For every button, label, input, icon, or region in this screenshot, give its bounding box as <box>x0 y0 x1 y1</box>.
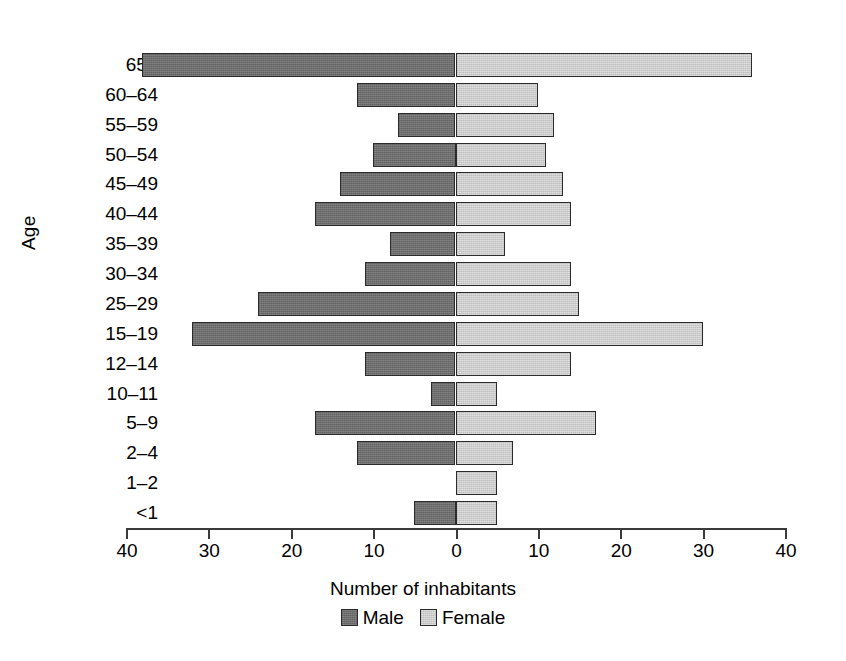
x-axis-tick-label: 10 <box>344 541 404 560</box>
bar-row <box>126 83 785 107</box>
x-axis-tick <box>291 528 293 539</box>
x-axis-tick-label: 40 <box>97 541 157 560</box>
y-axis-title: Age <box>18 216 40 250</box>
bar-female <box>456 113 555 137</box>
bar-female <box>456 322 703 346</box>
legend-entry: Female <box>420 608 505 627</box>
bar-female <box>456 53 753 77</box>
bar-female <box>456 202 571 226</box>
bar-row <box>126 53 785 77</box>
bar-male <box>258 292 456 316</box>
bar-row <box>126 352 785 376</box>
bar-male <box>365 262 456 286</box>
bar-male <box>315 202 455 226</box>
bar-male <box>398 113 456 137</box>
bar-female <box>456 262 571 286</box>
bar-row <box>126 501 785 525</box>
legend-label: Male <box>363 608 404 627</box>
legend-entry: Male <box>341 608 404 627</box>
x-axis-tick-label: 0 <box>427 541 487 560</box>
bar-male <box>390 232 456 256</box>
bar-row <box>126 262 785 286</box>
bar-male <box>340 172 455 196</box>
x-axis-tick-label: 30 <box>674 541 734 560</box>
x-axis-title: Number of inhabitants <box>0 578 846 600</box>
bar-row <box>126 471 785 495</box>
bar-female <box>456 471 497 495</box>
bar-row <box>126 143 785 167</box>
bar-female <box>456 501 497 525</box>
bar-female <box>456 143 547 167</box>
bar-female <box>456 441 514 465</box>
bar-row <box>126 232 785 256</box>
x-axis-tick <box>785 528 787 539</box>
x-axis-tick <box>538 528 540 539</box>
x-axis-tick <box>456 528 458 539</box>
bar-row <box>126 382 785 406</box>
bar-female <box>456 382 497 406</box>
chart-legend: MaleFemale <box>0 608 846 627</box>
bar-row <box>126 411 785 435</box>
bar-male <box>357 83 456 107</box>
x-axis-tick-label: 10 <box>509 541 569 560</box>
bar-row <box>126 202 785 226</box>
bar-male <box>357 441 456 465</box>
x-axis-tick <box>126 528 128 539</box>
bar-male <box>365 352 456 376</box>
bar-female <box>456 352 571 376</box>
plot-area <box>126 50 785 528</box>
female-swatch <box>420 609 437 626</box>
x-axis-tick-label: 40 <box>756 541 816 560</box>
bar-male <box>142 53 455 77</box>
bar-female <box>456 83 538 107</box>
bar-male <box>414 501 455 525</box>
x-axis-tick-label: 20 <box>591 541 651 560</box>
x-axis-tick <box>208 528 210 539</box>
bar-female <box>456 292 580 316</box>
bar-row <box>126 113 785 137</box>
bar-row <box>126 292 785 316</box>
bar-male <box>315 411 455 435</box>
legend-label: Female <box>442 608 505 627</box>
bar-female <box>456 172 563 196</box>
x-axis-tick <box>620 528 622 539</box>
population-pyramid-chart: Age 65+60–6455–5950–5445–4940–4435–3930–… <box>0 0 846 661</box>
x-axis-tick <box>703 528 705 539</box>
bar-row <box>126 322 785 346</box>
x-axis-tick-label: 30 <box>179 541 239 560</box>
male-swatch <box>341 609 358 626</box>
bar-female <box>456 232 505 256</box>
bar-row <box>126 441 785 465</box>
bar-male <box>373 143 455 167</box>
x-axis-tick-label: 20 <box>262 541 322 560</box>
bar-male <box>192 322 456 346</box>
bar-female <box>456 411 596 435</box>
bar-male <box>431 382 456 406</box>
x-axis-tick <box>373 528 375 539</box>
bar-row <box>126 172 785 196</box>
